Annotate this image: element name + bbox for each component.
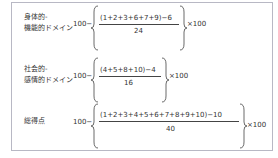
domain-label: 身体的- 機能的ドメイン <box>24 12 73 34</box>
numerator: (1+2+3+6+7+9)−6 <box>100 14 172 22</box>
label-line: 社会的- <box>24 64 73 75</box>
denominator: 40 <box>166 125 175 133</box>
denominator: 16 <box>124 79 133 87</box>
label-line: 総得点 <box>24 116 45 127</box>
fraction-bar <box>99 76 161 77</box>
left-brace-icon <box>93 104 99 148</box>
right-brace-icon <box>180 6 186 50</box>
prefix-text: 100− <box>73 72 92 80</box>
suffix-text: ×100 <box>169 72 188 80</box>
right-brace-icon <box>240 104 246 148</box>
prefix-text: 100− <box>73 118 92 126</box>
fraction-bar <box>99 24 179 25</box>
suffix-text: ×100 <box>187 20 206 28</box>
numerator: (1+2+3+4+5+6+7+8+9+10)−10 <box>100 111 222 119</box>
fraction-bar <box>99 121 239 122</box>
label-line: 身体的- <box>24 12 73 23</box>
left-brace-icon <box>93 58 99 102</box>
prefix-text: 100− <box>73 20 92 28</box>
numerator: (4+5+8+10)−4 <box>100 66 156 74</box>
suffix-text: ×100 <box>247 121 266 129</box>
domain-label: 社会的- 感情的ドメイン <box>24 64 73 86</box>
right-brace-icon <box>162 58 168 102</box>
left-brace-icon <box>93 6 99 50</box>
label-line: 機能的ドメイン <box>24 23 73 34</box>
domain-label: 総得点 <box>24 116 45 127</box>
label-line: 感情的ドメイン <box>24 75 73 86</box>
denominator: 24 <box>134 27 143 35</box>
